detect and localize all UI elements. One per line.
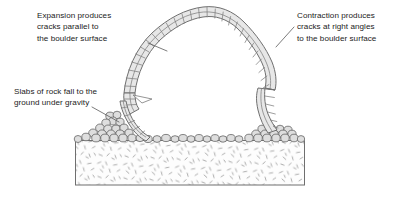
boulder-shell-band (124, 7, 276, 93)
annotation-slabs: Slabs of rock fall to the ground under g… (14, 86, 97, 109)
ground-rect (76, 141, 305, 186)
annotation-expansion: Expansion produces cracks parallel to th… (37, 10, 111, 44)
annotation-expansion-line-3: the boulder surface (37, 33, 111, 44)
annotation-contraction: Contraction produces cracks at right ang… (297, 10, 376, 44)
annotation-slabs-line-2: ground under gravity (14, 97, 97, 108)
annotation-expansion-line-1: Expansion produces (37, 10, 111, 21)
annotation-slabs-line-1: Slabs of rock fall to the (14, 86, 97, 97)
annotation-contraction-line-2: cracks at right angles (297, 21, 376, 32)
ground-layer (76, 141, 305, 186)
boulder-joints-arch (125, 8, 271, 94)
boulder (120, 7, 278, 141)
weathering-diagram: Expansion produces cracks parallel to th… (0, 0, 409, 198)
annotation-contraction-line-3: to the boulder surface (297, 33, 376, 44)
annotation-expansion-line-2: cracks parallel to (37, 21, 111, 32)
annotation-contraction-line-1: Contraction produces (297, 10, 376, 21)
leader-contraction (276, 27, 294, 47)
